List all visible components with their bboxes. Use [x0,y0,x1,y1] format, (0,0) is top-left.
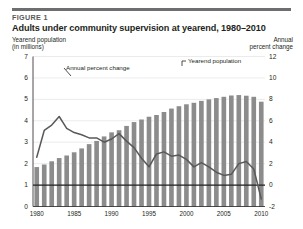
annotation-population: Yearend population [188,57,241,64]
x-tick-2005: 2005 [210,210,238,217]
left-tick-2: 2 [14,160,28,167]
bar-series [34,95,263,206]
left-tick-3: 3 [14,138,28,145]
right-tick-12: 12 [269,53,285,60]
x-tick-1985: 1985 [60,210,88,217]
chart-canvas [0,0,303,229]
right-tick-4: 4 [269,138,285,145]
right-tick-0: 0 [269,181,285,188]
x-tick-1980: 1980 [23,210,51,217]
x-tick-1990: 1990 [98,210,126,217]
x-tick-2010: 2010 [247,210,275,217]
left-tick-1: 1 [14,181,28,188]
left-tick-4: 4 [14,117,28,124]
left-tick-6: 6 [14,74,28,81]
right-tick-2: 2 [269,160,285,167]
right-tick-10: 10 [269,74,285,81]
x-tick-1995: 1995 [135,210,163,217]
figure-panel: FIGURE 1 Adults under community supervis… [0,0,303,229]
left-tick-0: 0 [14,203,28,210]
right-tick-6: 6 [269,117,285,124]
right-tick-8: 8 [269,95,285,102]
annotation-percent-change: Annual percent change [66,64,130,71]
x-tick-2000: 2000 [172,210,200,217]
left-tick-5: 5 [14,95,28,102]
left-tick-7: 7 [14,53,28,60]
right-tick--2: -2 [269,203,285,210]
